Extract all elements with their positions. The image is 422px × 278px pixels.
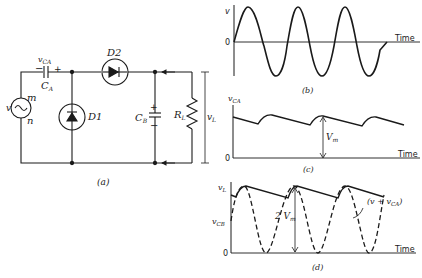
chart-b-zero: 0 bbox=[225, 38, 230, 47]
chart-d-leader-line bbox=[353, 208, 363, 218]
chart-c-vm-label: Vm bbox=[326, 132, 339, 143]
node-m-label: m bbox=[27, 92, 36, 103]
chart-b-sine-curve bbox=[234, 7, 387, 76]
capacitor-a-label: CA bbox=[41, 80, 54, 92]
chart-d-vl-curve bbox=[231, 186, 384, 198]
chart-d-zero: 0 bbox=[223, 249, 228, 258]
chart-d-sum-label: (v + vCA) bbox=[367, 197, 402, 207]
caption-b: (b) bbox=[302, 86, 313, 95]
chart-d-time: Time bbox=[394, 245, 415, 254]
chart-d-dashed-sum-curve bbox=[231, 186, 384, 253]
load-resistor-label: RL bbox=[173, 109, 186, 121]
chart-c-time: Time bbox=[397, 150, 418, 159]
caption-c: (c) bbox=[303, 165, 314, 174]
chart-d bbox=[231, 182, 416, 253]
chart-b bbox=[234, 5, 420, 76]
load-voltage-label: vL bbox=[207, 112, 216, 123]
caption-a: (a) bbox=[97, 177, 110, 187]
diode-1-label: D1 bbox=[87, 111, 102, 122]
chart-d-vl-label: vL bbox=[218, 183, 227, 193]
load-resistor-zigzag bbox=[187, 98, 197, 129]
chart-b-y-label: v bbox=[225, 7, 230, 16]
capacitor-b-minus: − bbox=[150, 120, 158, 131]
capacitor-a-plus: + bbox=[54, 64, 62, 74]
capacitor-a-minus: − bbox=[35, 63, 43, 74]
chart-c-zero: 0 bbox=[225, 154, 230, 163]
caption-d: (d) bbox=[312, 263, 323, 272]
wire-bottom bbox=[21, 118, 192, 163]
diode-2-label: D2 bbox=[106, 47, 121, 58]
capacitor-b-label: CB bbox=[135, 112, 148, 124]
sine-glyph-icon bbox=[15, 106, 27, 111]
chart-d-2vm-label: 2 Vm bbox=[274, 211, 296, 222]
chart-c-y-label: vCA bbox=[228, 94, 241, 104]
figure-canvas: vCA − + CA D2 D1 v m n + − CB RL vL (a) … bbox=[0, 0, 422, 278]
capacitor-b-plus: + bbox=[150, 102, 158, 112]
chart-b-time: Time bbox=[394, 34, 415, 43]
source-label: v bbox=[6, 103, 11, 113]
chart-d-vcb-label: vCB bbox=[212, 217, 225, 227]
chart-c-ripple-curve bbox=[233, 115, 404, 126]
node-n-label: n bbox=[27, 115, 33, 126]
